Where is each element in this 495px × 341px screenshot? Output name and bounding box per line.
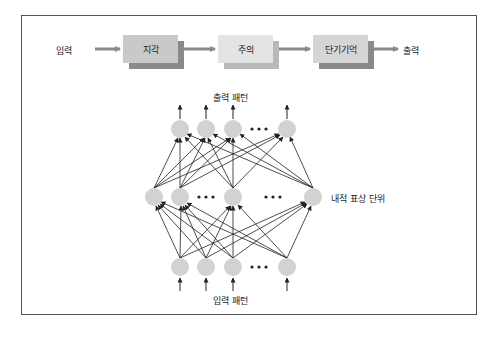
hidden-layer-label: 내적 표상 단위 <box>331 192 385 205</box>
output-arrows <box>180 105 287 119</box>
input-node <box>171 258 189 276</box>
input-node <box>197 258 215 276</box>
diagram-graphics <box>0 0 495 341</box>
hidden-layer-nodes <box>145 188 322 206</box>
output-node <box>224 120 242 138</box>
hidden-node <box>145 188 163 206</box>
output-pattern-label: 출력 패턴 <box>213 91 248 104</box>
input-node <box>224 258 242 276</box>
output-node <box>171 120 189 138</box>
input-pattern-label: 입력 패턴 <box>213 294 248 307</box>
hidden-to-output-edges <box>154 134 313 188</box>
input-to-hidden-edges <box>156 202 311 258</box>
hidden-node <box>224 188 242 206</box>
output-node <box>278 120 296 138</box>
hidden-node <box>304 188 322 206</box>
hidden-node <box>171 188 189 206</box>
input-layer-nodes <box>171 258 296 276</box>
input-node <box>278 258 296 276</box>
input-arrows <box>180 278 287 291</box>
output-node <box>197 120 215 138</box>
